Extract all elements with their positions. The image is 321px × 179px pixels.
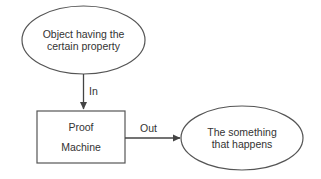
out-edge-label: Out bbox=[140, 122, 157, 135]
machine-line-1: Proof bbox=[68, 117, 93, 137]
in-edge-label: In bbox=[89, 85, 98, 98]
out-label-text: Out bbox=[140, 122, 157, 134]
proof-machine-label: Proof Machine bbox=[37, 111, 125, 163]
input-node-line-1: Object having the bbox=[43, 28, 125, 40]
input-node-line-2: certain property bbox=[47, 40, 120, 52]
output-node-line-2: that happens bbox=[212, 138, 273, 150]
in-label-text: In bbox=[89, 85, 98, 97]
output-node-label: The something that happens bbox=[181, 106, 303, 170]
output-node-line-1: The something bbox=[207, 126, 276, 138]
machine-line-2: Machine bbox=[61, 137, 101, 157]
input-node-label: Object having the certain property bbox=[22, 6, 145, 74]
